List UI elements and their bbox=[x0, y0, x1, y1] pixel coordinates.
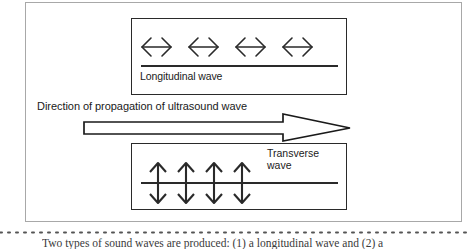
transverse-label-line-2: wave bbox=[267, 159, 292, 171]
transverse-label-line-1: Transverse bbox=[267, 147, 319, 159]
transverse-wave-label: Transverse wave bbox=[267, 147, 339, 171]
longitudinal-wave-label: Longitudinal wave bbox=[140, 70, 222, 82]
longitudinal-wave-box bbox=[131, 18, 347, 95]
propagation-direction-label: Direction of propagation of ultrasound w… bbox=[37, 100, 247, 112]
dotted-divider bbox=[0, 231, 468, 234]
figure-caption-text: Two types of sound waves are produced: (… bbox=[42, 237, 462, 249]
